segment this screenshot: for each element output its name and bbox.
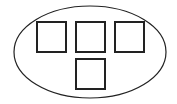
box-1: [37, 22, 66, 52]
boxes-group: [37, 22, 144, 89]
box-4: [76, 59, 105, 89]
box-3: [115, 22, 144, 52]
box-2: [76, 22, 105, 52]
diagram-canvas: [0, 0, 177, 104]
